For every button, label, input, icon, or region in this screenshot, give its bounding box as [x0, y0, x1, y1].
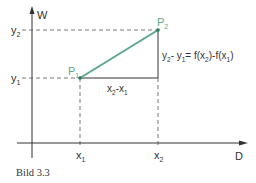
- y2-tick-label: y2: [11, 24, 21, 38]
- difference-quotient-diagram: W D y2 y1 x1 x2 P1 P2 x2-x1 y2- y1= f(x2…: [0, 0, 256, 183]
- x2-tick-label: x2: [154, 149, 164, 163]
- secant-line: [80, 30, 158, 78]
- x1-tick-label: x1: [76, 149, 86, 163]
- x-axis-arrow-icon: [239, 141, 248, 146]
- y-axis-label: W: [37, 9, 48, 21]
- figure-caption: Bild 3.3: [16, 167, 50, 178]
- x-axis-label: D: [235, 150, 243, 162]
- delta-y-label: y2- y1= f(x2)-f(x1): [162, 50, 233, 63]
- point-p2-marker: [156, 28, 160, 32]
- delta-x-label: x2-x1: [107, 83, 128, 96]
- y-axis-arrow-icon: [30, 6, 35, 14]
- point-p1-label: P1: [68, 65, 79, 79]
- point-p2-label: P2: [157, 16, 168, 30]
- y1-tick-label: y1: [11, 72, 21, 86]
